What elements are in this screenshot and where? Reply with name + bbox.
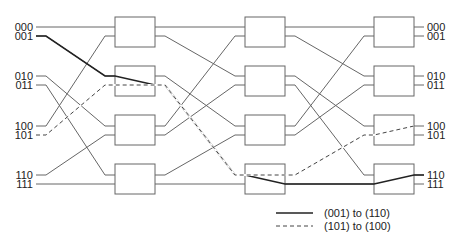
shuffle-link — [285, 85, 374, 175]
switch-box-s3-2 — [374, 66, 414, 96]
switch-box-s1-1 — [115, 17, 155, 47]
switch-box-s2-1 — [245, 17, 285, 47]
switch-box-s2-3 — [245, 115, 285, 145]
switch-box-s1-3 — [115, 115, 155, 145]
shuffle-link — [36, 135, 115, 175]
input-label-111: 111 — [16, 178, 33, 190]
shuffle-link — [285, 36, 374, 76]
shuffle-link — [285, 85, 374, 135]
output-label-001: 001 — [427, 30, 445, 42]
shuffle-link — [155, 76, 245, 126]
shuffle-link — [155, 36, 245, 76]
shuffle-link — [36, 36, 115, 126]
input-label-001: 001 — [15, 30, 33, 42]
input-label-101: 101 — [15, 129, 33, 141]
path-001-to-110 — [36, 36, 424, 184]
shuffle-link — [155, 85, 245, 135]
shuffle-link — [285, 76, 374, 126]
legend-dashed-label: (101) to (100) — [324, 220, 391, 232]
switch-box-s2-2 — [245, 66, 285, 96]
switch-box-s3-1 — [374, 17, 414, 47]
shuffle-link — [36, 76, 115, 126]
input-label-011: 011 — [15, 79, 33, 91]
switch-box-s1-4 — [115, 164, 155, 194]
output-label-111: 111 — [427, 178, 444, 190]
legend-solid-label: (001) to (110) — [324, 207, 390, 219]
output-label-101: 101 — [427, 129, 445, 141]
shuffle-link — [285, 36, 374, 126]
omega-network-diagram: 0000010100111001011101110000010100111001… — [0, 0, 461, 243]
shuffle-link — [155, 36, 245, 126]
legend: (001) to (110) (101) to (100) — [276, 207, 391, 232]
output-label-011: 011 — [427, 79, 445, 91]
shuffle-link — [36, 85, 115, 175]
